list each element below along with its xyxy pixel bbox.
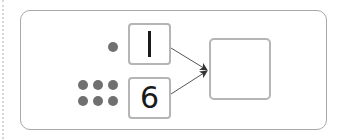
arrows <box>0 0 344 139</box>
arrow-from-addend-2 <box>171 71 207 94</box>
arrow-from-addend-1 <box>171 48 207 70</box>
